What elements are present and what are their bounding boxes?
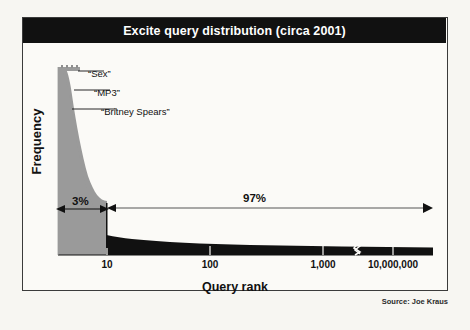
x-tick-label-10000000: 10,000,000 xyxy=(368,259,418,270)
tail-share-arrow-left-head xyxy=(107,204,116,212)
y-axis-label: Frequency xyxy=(29,82,44,202)
tail-share-label: 97% xyxy=(243,192,266,204)
x-tick-label-1000: 1,000 xyxy=(310,259,335,270)
head-share-label: 3% xyxy=(72,195,89,207)
chart-svg xyxy=(22,43,448,291)
chart-figure: Excite query distribution (circa 2001) xyxy=(0,0,470,330)
callout-label-sex: “Sex” xyxy=(88,68,111,79)
head-bar-top-notch-1 xyxy=(61,65,63,68)
head-bar-top-notch-2 xyxy=(66,65,68,68)
callout-label-mp3: “MP3” xyxy=(94,87,120,98)
page-title: Excite query distribution (circa 2001) xyxy=(123,24,346,38)
head-tail-boundary xyxy=(106,203,108,255)
x-tick-label-100: 100 xyxy=(202,259,219,270)
callout-label-britney-spears: “Britney Spears” xyxy=(101,106,170,117)
source-credit: Source: Joe Kraus xyxy=(382,297,448,306)
tail-share-arrow-right-head xyxy=(423,203,433,213)
x-axis-label: Query rank xyxy=(0,280,470,294)
plot-area xyxy=(22,43,448,291)
head-bar-top-notch-3 xyxy=(71,65,73,68)
x-tick-label-10: 10 xyxy=(101,259,112,270)
head-bar-top-notch-4 xyxy=(76,65,78,68)
chart-title-bar: Excite query distribution (circa 2001) xyxy=(23,18,446,43)
